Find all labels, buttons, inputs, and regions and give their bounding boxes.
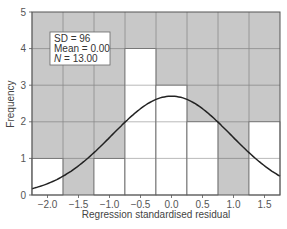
histogram-bar bbox=[94, 158, 125, 195]
y-tick-label: 5 bbox=[20, 7, 26, 18]
x-tick-label: −2.0 bbox=[38, 199, 58, 210]
histogram-chart: 012345 −2.0−1.5−1.0−0.50.00.51.01.5 SD =… bbox=[0, 0, 287, 229]
y-tick-label: 4 bbox=[20, 43, 26, 54]
histogram-bar bbox=[32, 158, 63, 195]
legend-n: N = 13.00 bbox=[54, 53, 98, 64]
y-axis-ticks: 012345 bbox=[20, 7, 32, 201]
y-axis-title: Frequency bbox=[5, 80, 16, 127]
x-axis-ticks: −2.0−1.5−1.0−0.50.00.51.01.5 bbox=[38, 195, 272, 210]
y-tick-label: 3 bbox=[20, 80, 26, 91]
stats-legend: SD = 96 Mean = 0.00 N = 13.00 bbox=[50, 32, 110, 65]
x-axis-title: Regression standardised residual bbox=[82, 209, 230, 220]
y-tick-label: 1 bbox=[20, 153, 26, 164]
y-tick-label: 0 bbox=[20, 190, 26, 201]
y-tick-label: 2 bbox=[20, 116, 26, 127]
x-tick-label: 1.5 bbox=[258, 199, 272, 210]
histogram-bar bbox=[156, 85, 187, 195]
